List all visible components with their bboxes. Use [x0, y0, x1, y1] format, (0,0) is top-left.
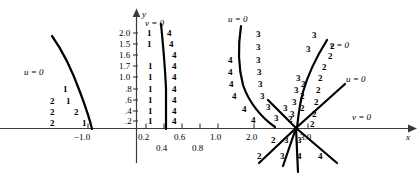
y-tick-label-5: 1.0 — [119, 73, 130, 82]
marker-digit: 3 — [256, 56, 261, 65]
x-tick-label-2-0: 2.0 — [246, 133, 257, 142]
curve-u0-left — [52, 36, 92, 129]
marker-digit: 4 — [228, 68, 233, 77]
marker-digit: 4 — [172, 62, 177, 71]
marker-digit: 4 — [172, 117, 177, 126]
marker-digit: 2 — [312, 110, 317, 119]
y-axis-arrowhead — [133, 9, 141, 18]
marker-digit: 4 — [229, 80, 234, 89]
marker-digit: 3 — [260, 92, 265, 101]
marker-digit: 4 — [172, 107, 177, 116]
marker-digit: 3 — [257, 68, 262, 77]
marker-digit: 1 — [147, 40, 152, 49]
marker-digit: 3 — [294, 86, 299, 95]
x-tick-label-0-4: 0.4 — [156, 144, 167, 153]
curve-label-v0-axis: v = 0 — [352, 113, 371, 122]
y-tick-label-9: .2 — [125, 117, 132, 126]
marker-digit: 4 — [242, 105, 247, 114]
y-tick-label-6: .8 — [125, 85, 132, 94]
curve-label-u0-left: u = 0 — [24, 68, 44, 77]
y-tick-marks — [133, 33, 138, 121]
marker-digit: 4 — [167, 29, 172, 38]
y-tick-label-4: 1.7 — [119, 62, 130, 71]
marker-digit: 2 — [300, 92, 305, 101]
marker-digit: 1 — [148, 117, 153, 126]
marker-digit: 3 — [297, 136, 302, 145]
marker-digit: 3 — [306, 45, 311, 54]
curve-label-v0-top: v = 0 — [145, 19, 164, 28]
curve-v0-axis-branch — [161, 24, 166, 129]
marker-digit: 2 — [50, 97, 55, 106]
x-axis-label: x — [406, 133, 410, 142]
y-tick-label-1: 2.0 — [119, 29, 130, 38]
y-tick-label-3: 1.6 — [119, 51, 130, 60]
marker-digit: 3 — [274, 114, 279, 123]
marker-digit: 4 — [172, 85, 177, 94]
marker-digit: 2 — [318, 74, 323, 83]
plot-svg — [0, 0, 419, 188]
marker-digit: 4 — [172, 51, 177, 60]
marker-digit: 4 — [251, 116, 256, 125]
marker-digit: 4 — [169, 40, 174, 49]
marker-digit: 2 — [300, 104, 305, 113]
marker-digit: 3 — [283, 104, 288, 113]
x-tick-label-neg-1-0: −1.0 — [74, 133, 90, 142]
y-tick-label-8: .4 — [125, 107, 132, 116]
marker-digit: 2 — [314, 98, 319, 107]
marker-digit: 3 — [266, 103, 271, 112]
marker-digit: 2 — [328, 52, 333, 61]
x-tick-label-1-0: 1.0 — [210, 133, 221, 142]
y-tick-label-7: .6 — [125, 96, 132, 105]
marker-digit: 1 — [148, 73, 153, 82]
marker-digit: 2 — [322, 63, 327, 72]
marker-digit: 4 — [172, 96, 177, 105]
marker-digit: 2 — [50, 119, 55, 128]
curve-label-u0-mid: u = 0 — [228, 15, 248, 24]
marker-digit: 2 — [74, 108, 79, 117]
marker-digit: 4 — [232, 92, 237, 101]
marker-digit: 2 — [257, 152, 262, 161]
marker-digit: 1 — [147, 29, 152, 38]
marker-digit: 1 — [148, 107, 153, 116]
marker-digit: 1 — [148, 62, 153, 71]
marker-digit: 3 — [296, 74, 301, 83]
x-tick-label-0-6: 0.6 — [174, 133, 185, 142]
y-tick-label-2: 1.5 — [119, 40, 130, 49]
marker-digit: 2 — [301, 80, 306, 89]
marker-digit: 3 — [284, 136, 289, 145]
marker-digit: 1 — [148, 96, 153, 105]
x-tick-label-0-2: 0.2 — [138, 133, 149, 142]
marker-digit: 2 — [310, 120, 315, 129]
marker-digit: 2 — [316, 86, 321, 95]
marker-digit: 4 — [228, 56, 233, 65]
marker-digit: 3 — [292, 98, 297, 107]
marker-digit: 1 — [63, 85, 68, 94]
marker-digit: 1 — [82, 119, 87, 128]
marker-digit: 4 — [297, 152, 302, 161]
marker-digit: 3 — [258, 80, 263, 89]
marker-digit: 2 — [271, 136, 276, 145]
marker-digit: 4 — [318, 152, 323, 161]
marker-digit: 2 — [330, 42, 335, 51]
marker-digit: 3 — [256, 43, 261, 52]
curve-label-u0-node: u = 0 — [346, 75, 366, 84]
marker-digit: 1 — [66, 97, 71, 106]
marker-digit: 3 — [256, 30, 261, 39]
marker-digit: 4 — [172, 73, 177, 82]
marker-digit: 3 — [280, 152, 285, 161]
figure-canvas: 2.0 1.5 1.6 1.7 1.0 .8 .6 .4 .2 0.2 0.6 … — [0, 0, 419, 188]
x-axis-group — [0, 125, 417, 133]
marker-digit: 2 — [288, 115, 293, 124]
marker-digit: 2 — [50, 108, 55, 117]
marker-digit: 1 — [148, 85, 153, 94]
x-tick-label-0-8: 0.8 — [192, 144, 203, 153]
marker-digit: 3 — [312, 31, 317, 40]
